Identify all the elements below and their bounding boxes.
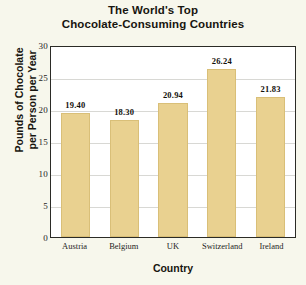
bar-value-label: 18.30	[100, 107, 149, 117]
bar[interactable]	[256, 97, 285, 237]
x-axis-tick-label: Austria	[50, 241, 99, 251]
bar-series: 19.4018.3020.9426.2421.83	[51, 47, 295, 237]
bar-slot: 26.24	[197, 47, 246, 237]
plot-area: 19.4018.3020.9426.2421.83	[50, 46, 296, 238]
x-axis-tick-label: Switzerland	[198, 241, 247, 251]
chart-figure: The World's Top Chocolate-Consuming Coun…	[0, 0, 306, 285]
x-axis-tick-label: Belgium	[99, 241, 148, 251]
bar-value-label: 21.83	[246, 84, 295, 94]
bar-slot: 21.83	[246, 47, 295, 237]
y-axis-tick-label: 5	[8, 201, 48, 211]
bar-value-label: 19.40	[51, 100, 100, 110]
x-axis-tick-labels: AustriaBelgiumUKSwitzerlandIreland	[50, 241, 296, 251]
bar-slot: 18.30	[100, 47, 149, 237]
y-axis-title: Pounds of Chocolate per Person per Year	[13, 15, 43, 185]
bar-value-label: 20.94	[149, 90, 198, 100]
bar-value-label: 26.24	[197, 56, 246, 66]
bar-slot: 19.40	[51, 47, 100, 237]
chart-title-line-1: The World's Top	[0, 3, 306, 17]
bar[interactable]	[110, 120, 139, 237]
x-axis-tick-label: UK	[148, 241, 197, 251]
y-axis-title-line-2: per Person per Year	[26, 15, 39, 185]
y-axis-tick-label: 0	[8, 233, 48, 243]
y-axis-title-line-1: Pounds of Chocolate	[13, 15, 26, 185]
x-axis-title: Country	[50, 262, 296, 274]
x-axis-tick-label: Ireland	[247, 241, 296, 251]
bar-slot: 20.94	[149, 47, 198, 237]
bar[interactable]	[61, 113, 90, 237]
bar[interactable]	[158, 103, 187, 237]
chart-title: The World's Top Chocolate-Consuming Coun…	[0, 3, 306, 31]
chart-title-line-2: Chocolate-Consuming Countries	[0, 17, 306, 31]
bar[interactable]	[207, 69, 236, 237]
